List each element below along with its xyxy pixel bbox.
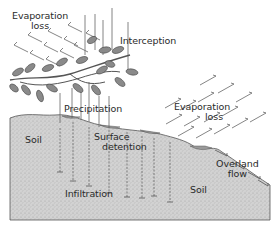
vegetation-branch (8, 35, 138, 103)
surface-detention-label: Surface detention (94, 132, 147, 152)
evaporation-loss-top-line2: loss (12, 21, 68, 31)
evaporation-loss-top-label: Evaporation loss (12, 11, 68, 31)
infiltration-label: Infiltration (65, 189, 113, 199)
precipitation-label: Precipitation (64, 104, 122, 114)
interception-label: Interception (120, 36, 176, 46)
evaporation-loss-right-line2: loss (174, 112, 230, 122)
soil-right-label: Soil (190, 185, 207, 195)
overland-flow-line2: flow (216, 169, 259, 179)
soil-left-label: Soil (25, 135, 42, 145)
evaporation-loss-right-label: Evaporation loss (174, 102, 230, 122)
surface-detention-line2: detention (94, 142, 147, 152)
overland-flow-label: Overland flow (216, 159, 259, 179)
